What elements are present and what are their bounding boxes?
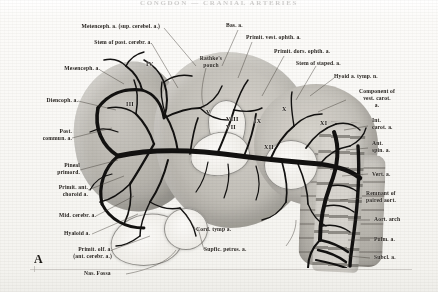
scan-grain-overlay xyxy=(0,0,438,292)
illustration-plate: CONGDON — CRANIAL ARTERIES xyxy=(0,0,438,292)
